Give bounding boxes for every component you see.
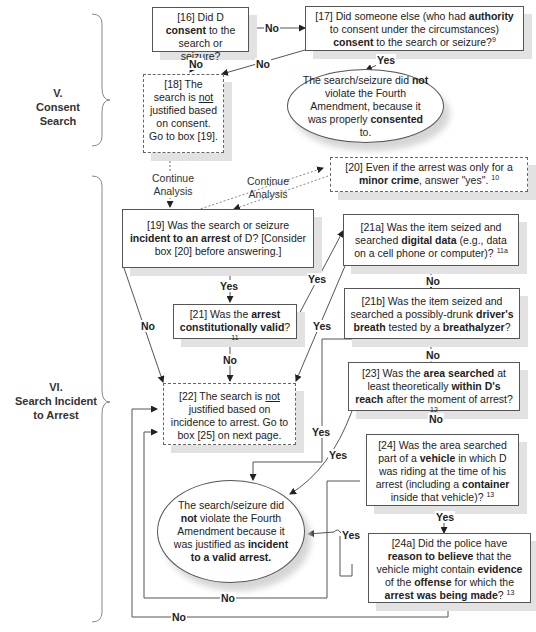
node-number: [18]	[164, 78, 182, 90]
node-21b-breathalyzer-question: [21b] Was the item seized and searched a…	[344, 288, 520, 339]
node-16-consent-question: [16] Did D consent to the search or seiz…	[152, 7, 249, 52]
node-text: Was the search or seizure	[167, 219, 289, 231]
section-vi-title-2: to Arrest	[14, 408, 98, 422]
node-number: [17]	[315, 10, 333, 22]
node-bold-text: vehicle	[420, 452, 456, 464]
node-text: of the	[385, 576, 411, 588]
edge-label-24a-22-no: No	[171, 611, 187, 623]
node-text: Was the	[383, 367, 421, 379]
edge-label-21a-21b-no: No	[425, 275, 441, 287]
footnote-ref: 11	[231, 334, 238, 341]
node-text: ?	[284, 321, 290, 333]
node-text: The search/seizure did	[178, 499, 284, 511]
node-bold-text: digital data	[401, 234, 456, 246]
section-v-title: Consent Search	[18, 100, 98, 128]
node-19-incident-to-arrest-question: [19] Was the search or seizure incident …	[122, 209, 314, 268]
continue-analysis-label-1: Continue Analysis	[143, 172, 203, 198]
label-line: Analysis	[143, 185, 203, 198]
node-bold-text: consent	[166, 24, 206, 36]
node-number: [22]	[179, 390, 197, 402]
edge-label-19-21-yes: Yes	[219, 280, 239, 292]
edge-label-21a-22-yes: Yes	[312, 320, 332, 332]
edge-label-19-22-no: No	[140, 320, 156, 332]
node-text: The search/seizure did	[303, 74, 409, 86]
node-text: to.	[360, 126, 372, 138]
node-21a-digital-data-question: [21a] Was the item seized and searched d…	[343, 214, 519, 266]
node-text: Did the police have	[418, 537, 507, 549]
node-text: after the moment of arrest?	[386, 393, 513, 405]
node-number: [21]	[190, 308, 208, 320]
node-text: , answer "yes".	[419, 174, 488, 186]
outcome-valid-incident-ellipse: The search/seizure did not violate the F…	[157, 480, 305, 583]
node-text: Was the	[210, 308, 248, 320]
node-bold-text: reason to believe	[388, 550, 474, 562]
node-bold-text: minor crime	[359, 174, 419, 186]
node-text: justified based on incidence to arrest. …	[171, 403, 288, 441]
node-bold-text: consent	[333, 36, 373, 48]
node-text: justified based on consent. Go to box [1…	[149, 104, 218, 142]
node-21-arrest-valid-question: [21] Was the arrest constitutionally val…	[173, 304, 297, 339]
edge-label-24a-ellipse-yes: Yes	[341, 529, 361, 541]
continue-analysis-label-2: Continue Analysis	[238, 175, 298, 201]
node-17-third-party-consent-question: [17] Did someone else (who had authority…	[305, 6, 524, 51]
edge-label-16-18-no: No	[188, 58, 204, 70]
node-number: [21a]	[361, 221, 384, 233]
node-bold-text: area searched	[424, 367, 495, 379]
edge-label-17-18-no: No	[255, 58, 271, 70]
edge-label-21b-23-no: No	[425, 349, 441, 361]
footnote-ref: 12	[430, 406, 438, 413]
node-underlined-text: not	[265, 390, 280, 402]
edge-label-23-24-no: No	[428, 413, 444, 425]
node-number: [24a]	[392, 537, 415, 549]
edge-label-21b-ellipse-yes: Yes	[311, 426, 331, 438]
node-text: for which the	[454, 576, 514, 588]
footnote-ref: 9	[492, 36, 496, 43]
node-number: [24]	[378, 439, 396, 451]
section-v-numeral: V.	[18, 86, 98, 100]
edge-label-24-24a-yes: Yes	[435, 511, 455, 523]
node-18-not-justified-consent: [18] The search is not justified based o…	[143, 74, 224, 153]
node-text: tested by a	[389, 321, 440, 333]
node-number: [21b]	[362, 295, 385, 307]
label-line: Continue	[238, 175, 298, 188]
node-number: [16]	[177, 11, 195, 23]
node-text: Did someone else (who had	[336, 10, 466, 22]
edge-label-16-17-no: No	[264, 22, 280, 34]
node-underlined-text: not	[199, 91, 214, 103]
node-number: [23]	[362, 367, 380, 379]
node-number: [20]	[345, 161, 363, 173]
footnote-ref: 10	[491, 174, 499, 181]
section-vi-label: VI. Search Incident to Arrest	[14, 380, 98, 422]
footnote-ref: 13	[486, 491, 494, 498]
node-bold-text: evidence	[478, 563, 523, 575]
node-number: [19]	[147, 219, 165, 231]
node-20-minor-crime-note: [20] Even if the arrest was only for a m…	[330, 157, 528, 192]
section-v-label: V. Consent Search	[18, 86, 98, 128]
node-bold-text: authority	[469, 10, 514, 22]
node-bold-text: incident to an arrest	[130, 232, 230, 244]
node-text: ?	[505, 321, 511, 333]
node-bold-text: not	[412, 74, 428, 86]
node-bold-text: arrest was being made	[385, 589, 498, 601]
node-23-within-reach-question: [23] Was the area searched at least theo…	[348, 362, 520, 411]
node-bold-text: consented	[370, 113, 423, 125]
node-bold-text: not	[181, 512, 197, 524]
node-22-not-justified-incident: [22] The search is not justified based o…	[163, 383, 296, 445]
node-bold-text: offense	[414, 576, 451, 588]
label-line: Continue	[143, 172, 203, 185]
node-text: to consent under the circumstances)	[330, 23, 499, 35]
node-bold-text: container	[462, 478, 509, 490]
outcome-consented-ellipse: The search/seizure did not violate the F…	[287, 69, 444, 143]
node-text: to the search or seizure?	[376, 36, 492, 48]
edge-label-24-22-no: No	[220, 592, 236, 604]
section-vi-numeral: VI.	[14, 380, 98, 394]
node-text: Did D	[198, 11, 224, 23]
node-24-vehicle-question: [24] Was the area searched part of a veh…	[366, 434, 519, 506]
node-text: ?	[498, 589, 504, 601]
node-24a-reason-to-believe-question: [24a] Did the police have reason to beli…	[368, 533, 531, 603]
node-text: inside that vehicle)?	[391, 491, 484, 503]
edge-label-21-22-no: No	[222, 354, 238, 366]
footnote-ref: 11a	[497, 247, 508, 254]
label-line: Analysis	[238, 188, 298, 201]
section-vi-title-1: Search Incident	[14, 394, 98, 408]
